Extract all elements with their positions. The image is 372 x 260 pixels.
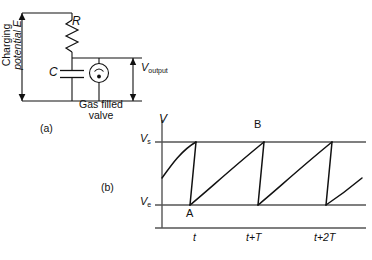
valve-arc-electrode-icon bbox=[95, 69, 104, 72]
gas-filled-valve-icon bbox=[90, 64, 109, 83]
gas-valve-line2: valve bbox=[62, 110, 140, 121]
discharge-edge-2 bbox=[326, 142, 332, 205]
subfigure-caption-b: (b) bbox=[101, 182, 114, 193]
capacitor-label: C bbox=[49, 66, 58, 79]
discharge-edge-0 bbox=[190, 142, 196, 205]
charge-curve-0 bbox=[162, 142, 196, 178]
annotation-point-a: A bbox=[186, 208, 193, 220]
figure-vector-layer bbox=[0, 0, 372, 260]
charging-potential-label: Charging potential E bbox=[1, 12, 23, 78]
output-arrow-head-up bbox=[130, 58, 136, 65]
output-voltage-subscript: output bbox=[148, 67, 167, 74]
source-arrow-head-down bbox=[19, 94, 26, 101]
x-tick-label-0: t bbox=[193, 232, 196, 243]
x-tick-label-2: t+2T bbox=[314, 232, 335, 243]
charge-curve-3 bbox=[326, 178, 362, 205]
valve-cathode-dot-icon bbox=[97, 75, 101, 79]
extinction-voltage-subscript: e bbox=[147, 201, 151, 208]
charge-curve-1 bbox=[190, 142, 264, 205]
resistor-label: R bbox=[72, 15, 81, 28]
subfigure-caption-a: (a) bbox=[40, 123, 53, 134]
gas-filled-valve-label: Gas filled valve bbox=[62, 99, 140, 121]
x-tick-label-1: t+T bbox=[246, 232, 261, 243]
striking-voltage-subscript: s bbox=[147, 138, 151, 145]
output-voltage-label: Voutput bbox=[141, 62, 168, 74]
figure-root: Charging potential E R C Voutput Gas fil… bbox=[0, 0, 372, 260]
sawtooth-waveform bbox=[162, 142, 362, 205]
charge-curve-2 bbox=[258, 142, 332, 205]
discharge-edge-1 bbox=[258, 142, 264, 205]
annotation-point-b: B bbox=[254, 119, 261, 131]
striking-voltage-label: Vs bbox=[140, 133, 151, 145]
y-axis-label: V bbox=[159, 113, 167, 126]
extinction-voltage-label: Ve bbox=[140, 196, 151, 208]
charging-potential-line2: potential E bbox=[12, 12, 23, 78]
